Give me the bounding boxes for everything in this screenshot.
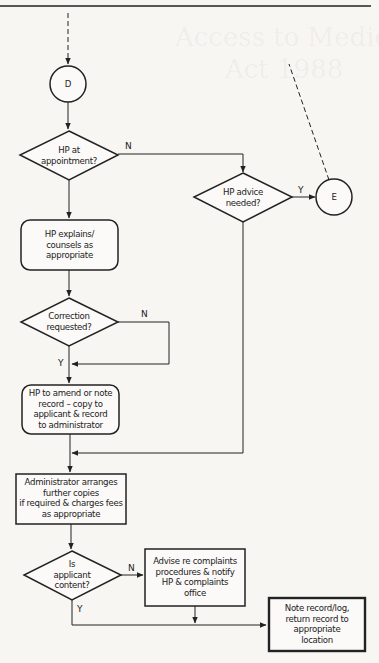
label-hp-explains: HP explains/ counsels as appropriate xyxy=(24,229,115,261)
label-hp-at-appointment: HP at appointment? xyxy=(34,145,104,166)
edge-label-content-no: N xyxy=(128,563,135,573)
label-applicant-content: Is applicant content? xyxy=(37,559,107,591)
connector-d-label: D xyxy=(58,79,78,90)
label-admin-arranges: Administrator arranges further copies if… xyxy=(16,477,126,519)
edge-label-appointment-no: N xyxy=(125,141,132,151)
edge-label-advice-yes: Y xyxy=(298,185,304,195)
label-advise-complaints: Advise re complaints procedures & notify… xyxy=(145,556,245,598)
label-hp-amend: HP to amend or note record – copy to app… xyxy=(23,388,118,430)
exit-dashed-line xyxy=(289,64,329,180)
edge-label-content-yes: Y xyxy=(77,604,83,614)
edge-label-correction-no: N xyxy=(141,309,148,319)
connector-e-label: E xyxy=(324,192,344,203)
edge-label-correction-yes: Y xyxy=(58,358,64,368)
label-correction-requested: Correction requested? xyxy=(34,311,104,332)
label-note-record: Note record/log, return record to approp… xyxy=(270,603,364,645)
label-hp-advice-needed: HP advice needed? xyxy=(208,187,278,208)
